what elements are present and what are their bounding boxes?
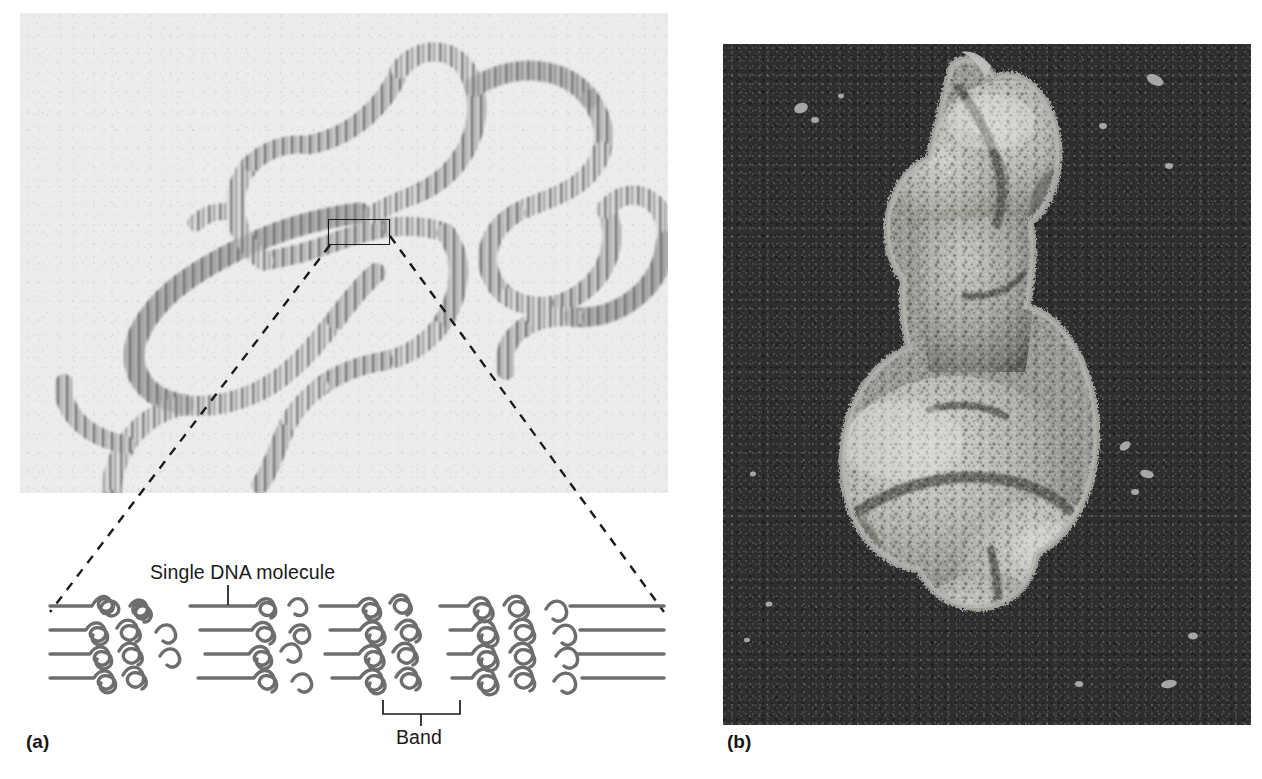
band-bracket	[383, 700, 460, 714]
leader-line-left	[50, 245, 330, 612]
panel-b-sem-micrograph	[723, 44, 1251, 725]
dna-fiber-diagram	[0, 560, 720, 779]
label-band: Band	[396, 726, 442, 749]
panel-letter-b: (b)	[727, 731, 751, 753]
condensed-chromosome-drawing	[723, 44, 1251, 725]
figure-root: Single DNA molecule Band (a)	[0, 0, 1262, 779]
dna-strand-2	[50, 619, 664, 646]
dna-strand-1	[50, 595, 664, 622]
leader-line-right	[390, 236, 664, 612]
dna-strand-4	[50, 667, 664, 695]
dna-strand-3	[50, 643, 664, 671]
panel-letter-a: (a)	[26, 731, 49, 753]
label-single-dna-molecule: Single DNA molecule	[150, 561, 335, 584]
